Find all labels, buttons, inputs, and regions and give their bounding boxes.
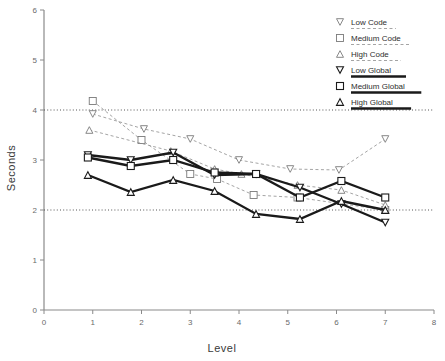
legend-item-high-code[interactable]: High Code <box>337 50 401 61</box>
legend-marker-icon <box>337 99 344 106</box>
data-point-marker <box>211 169 218 176</box>
y-tick-label: 4 <box>33 106 38 115</box>
y-tick-label: 2 <box>33 206 38 215</box>
seconds-by-level-line-chart: 0123456 012345678 Level Seconds Low Code… <box>0 0 445 361</box>
x-tick-label: 2 <box>139 318 144 327</box>
x-tick-label: 1 <box>91 318 96 327</box>
x-axis-title: Level <box>208 342 237 354</box>
legend-marker-icon <box>337 51 344 58</box>
data-point-marker <box>140 126 147 133</box>
data-point-marker <box>84 154 91 161</box>
data-point-marker <box>382 194 389 201</box>
series-medium-code <box>89 98 389 214</box>
data-point-marker <box>187 136 194 143</box>
data-point-marker <box>338 178 345 185</box>
legend-label: Medium Global <box>351 82 405 91</box>
y-tick-label: 6 <box>33 6 38 15</box>
legend-label: Medium Code <box>351 34 401 43</box>
legend-marker-icon <box>337 35 344 42</box>
chart-legend: Low CodeMedium CodeHigh CodeLow GlobalMe… <box>337 18 422 109</box>
legend-marker-icon <box>337 83 344 90</box>
legend-marker-icon <box>337 19 344 26</box>
legend-label: High Code <box>351 50 389 59</box>
data-point-marker <box>335 167 342 174</box>
y-axis-title: Seconds <box>5 145 17 191</box>
data-point-marker <box>253 171 260 178</box>
x-axis-ticks: 012345678 <box>42 310 437 327</box>
data-point-marker <box>338 187 345 194</box>
data-point-marker <box>89 98 96 105</box>
legend-item-low-global[interactable]: Low Global <box>337 66 407 77</box>
legend-label: Low Code <box>351 18 388 27</box>
x-tick-label: 0 <box>42 318 47 327</box>
legend-item-medium-global[interactable]: Medium Global <box>337 82 422 93</box>
y-tick-label: 3 <box>33 156 38 165</box>
x-tick-label: 8 <box>432 318 437 327</box>
y-tick-label: 1 <box>33 256 38 265</box>
legend-marker-icon <box>337 67 344 74</box>
x-tick-label: 5 <box>286 318 291 327</box>
data-point-marker <box>296 194 303 201</box>
chart-container: 0123456 012345678 Level Seconds Low Code… <box>0 0 445 361</box>
data-point-marker <box>287 166 294 173</box>
series-low-global <box>84 149 388 226</box>
legend-label: Low Global <box>351 66 391 75</box>
legend-item-medium-code[interactable]: Medium Code <box>337 34 412 45</box>
data-point-marker <box>382 136 389 143</box>
x-tick-label: 3 <box>188 318 193 327</box>
x-tick-label: 4 <box>237 318 242 327</box>
data-point-marker <box>89 111 96 118</box>
data-series-layer <box>84 98 388 226</box>
legend-item-low-code[interactable]: Low Code <box>337 18 396 29</box>
x-tick-label: 6 <box>334 318 339 327</box>
x-tick-label: 7 <box>383 318 388 327</box>
y-axis-ticks: 0123456 <box>33 6 44 315</box>
y-tick-label: 0 <box>33 306 38 315</box>
data-point-marker <box>86 127 93 134</box>
data-point-marker <box>170 157 177 164</box>
data-point-marker <box>250 192 257 199</box>
data-point-marker <box>127 163 134 170</box>
legend-item-high-global[interactable]: High Global <box>337 98 412 109</box>
y-tick-label: 5 <box>33 56 38 65</box>
data-point-marker <box>187 171 194 178</box>
legend-label: High Global <box>351 98 393 107</box>
